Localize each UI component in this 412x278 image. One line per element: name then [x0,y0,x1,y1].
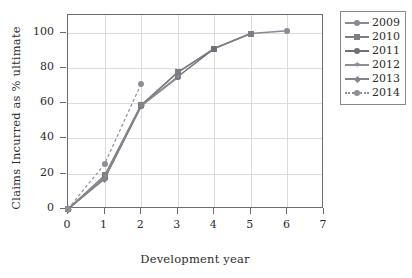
legend-sample-2011 [345,45,369,57]
y-tick-label: 40 [10,130,54,143]
x-tick-label: 1 [89,218,119,231]
series-line-2014 [68,84,141,209]
data-point-2011-y4 [211,46,217,52]
legend-label-2013: 2013 [372,73,400,85]
legend-marker-2013 [353,75,360,82]
x-tick-label: 7 [308,218,338,231]
legend-sample-2014 [345,87,369,99]
legend-label-2011: 2011 [372,45,400,57]
legend-item-2009[interactable]: 2009 [345,16,400,30]
legend-marker-2011 [354,48,360,54]
y-tick-label: 100 [10,25,54,38]
plot-inner: ✶✶✶✶ [68,15,322,207]
legend-label-2012: 2012 [372,59,400,71]
legend-marker-2014 [354,90,360,96]
legend-sample-2009 [345,17,369,29]
legend-label-2014: 2014 [372,87,400,99]
series-line-2011 [68,49,214,209]
y-tick-mark [60,102,66,103]
y-tick-mark [60,137,66,138]
data-point-2010-y5 [248,31,254,37]
legend-sample-2010 [345,31,369,43]
legend-item-2012[interactable]: ✶2012 [345,58,400,72]
legend-item-2014[interactable]: 2014 [345,86,400,100]
y-tick-mark [60,32,66,33]
legend-label-2010: 2010 [372,31,400,43]
x-tick-label: 6 [271,218,301,231]
legend-sample-2013 [345,73,369,85]
x-tick-label: 4 [198,218,228,231]
legend-marker-2012: ✶ [353,61,362,70]
legend-marker-2009 [354,20,360,26]
x-axis-label: Development year [67,252,323,266]
x-tick-label: 0 [52,218,82,231]
legend-sample-2012: ✶ [345,59,369,71]
series-line-2010 [68,34,251,209]
y-tick-label: 80 [10,60,54,73]
y-tick-label: 20 [10,166,54,179]
legend-item-2013[interactable]: 2013 [345,72,400,86]
legend-label-2009: 2009 [372,17,400,29]
legend-marker-2010 [354,34,360,40]
series-line-2013 [68,106,141,209]
data-point-2012-y3: ✶ [173,73,182,82]
y-tick-label: 60 [10,95,54,108]
y-axis-label: Claims Incurred as % ultimate [9,18,23,218]
plot-area: ✶✶✶✶ [67,14,323,208]
y-tick-mark [60,67,66,68]
chart-container: Claims Incurred as % ultimate Developmen… [0,0,412,278]
y-tick-label: 0 [10,201,54,214]
legend-item-2011[interactable]: 2011 [345,44,400,58]
data-point-2014-y1 [102,161,108,167]
data-point-2014-y0 [65,206,71,212]
x-tick-label: 5 [235,218,265,231]
data-point-2014-y2 [138,81,144,87]
y-tick-mark [60,173,66,174]
x-tick-label: 2 [125,218,155,231]
x-tick-label: 3 [162,218,192,231]
legend-item-2010[interactable]: 2010 [345,30,400,44]
legend: 200920102011✶201220132014 [340,11,406,105]
